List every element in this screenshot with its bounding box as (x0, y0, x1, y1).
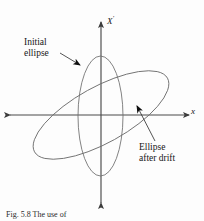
ellipse-drift-diagram (0, 0, 204, 221)
drifted-ellipse-label: Ellipse after drift (139, 142, 175, 164)
initial-ellipse-label-line1: Initial (24, 37, 49, 48)
x-axis-label: x (191, 106, 195, 116)
figure-container: Initial ellipse Ellipse after drift X′ x… (0, 0, 204, 221)
initial-ellipse-leader (60, 53, 80, 65)
y-axis-label: X′ (107, 14, 114, 26)
drifted-ellipse-label-line1: Ellipse (139, 142, 175, 153)
figure-caption: Fig. 5.8 The use of (6, 210, 196, 219)
leader-lines-group (60, 53, 155, 141)
drifted-ellipse-label-line2: after drift (139, 153, 175, 164)
initial-ellipse-label: Initial ellipse (24, 37, 49, 59)
y-axis-prime-symbol: ′ (113, 14, 115, 22)
initial-ellipse-label-line2: ellipse (24, 48, 49, 59)
